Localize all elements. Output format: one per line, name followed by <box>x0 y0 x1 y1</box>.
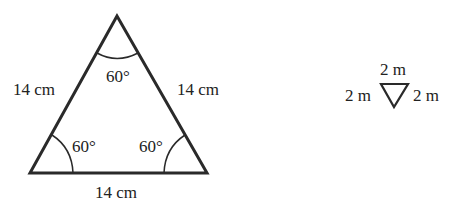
diagram-canvas: 14 cm 14 cm 14 cm 60° 60° 60° 2 m 2 m 2 … <box>0 0 454 212</box>
side-label-bottom: 14 cm <box>95 183 137 202</box>
small-triangle <box>381 84 408 107</box>
side-label-right: 14 cm <box>177 80 219 99</box>
small-side-label-top: 2 m <box>380 60 406 79</box>
small-side-label-right: 2 m <box>413 86 439 105</box>
angle-arc-bottom-left <box>52 135 73 173</box>
angle-arc-bottom-right <box>164 135 185 173</box>
side-label-left: 14 cm <box>13 80 55 99</box>
angle-arc-top <box>97 53 138 59</box>
angle-label-bottom-left: 60° <box>72 137 96 156</box>
angle-label-top: 60° <box>106 67 130 86</box>
angle-label-bottom-right: 60° <box>139 137 163 156</box>
small-side-label-left: 2 m <box>345 86 371 105</box>
